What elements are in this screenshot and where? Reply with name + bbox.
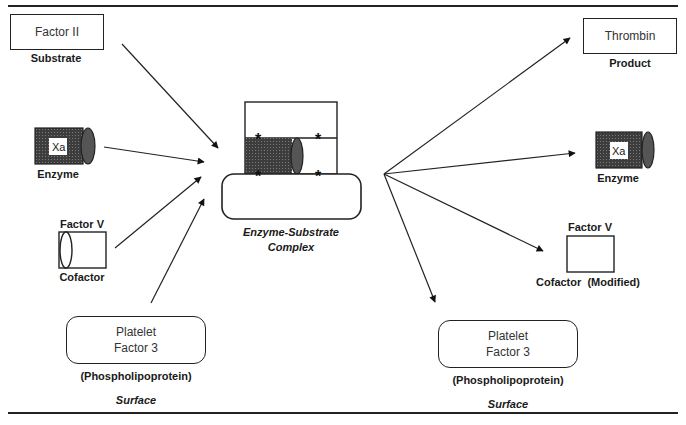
right-surface-label: Surface bbox=[488, 398, 528, 410]
left-platelet-factor-3-text: Platelet Factor 3 bbox=[114, 324, 158, 356]
svg-text:*: * bbox=[255, 131, 262, 148]
output-arrows bbox=[384, 38, 575, 302]
left-factor-v-label: Factor V bbox=[60, 218, 104, 230]
left-cofactor-label: Cofactor bbox=[59, 271, 104, 283]
right-xa-text: Xa bbox=[612, 145, 625, 157]
enzyme-substrate-complex-shape: * * * * bbox=[222, 102, 361, 219]
left-enzyme-label: Enzyme bbox=[37, 168, 79, 180]
right-cofactor-modified-label: Cofactor (Modified) bbox=[536, 276, 640, 288]
complex-label: Enzyme-Substrate Complex bbox=[243, 225, 339, 255]
substrate-label: Substrate bbox=[31, 52, 82, 64]
left-xa-text: Xa bbox=[52, 141, 65, 153]
right-platelet-factor-3-text: Platelet Factor 3 bbox=[486, 328, 530, 360]
left-platelet-factor-3-box: Platelet Factor 3 bbox=[66, 316, 206, 364]
thrombin-box: Thrombin bbox=[583, 18, 677, 54]
input-arrows bbox=[104, 44, 218, 303]
left-surface-label: Surface bbox=[116, 394, 156, 406]
svg-text:*: * bbox=[315, 131, 322, 148]
right-factor-v-label: Factor V bbox=[568, 221, 612, 233]
right-phospholipoprotein-label: (Phospholipoprotein) bbox=[452, 374, 563, 386]
factor-ii-box: Factor II bbox=[10, 14, 104, 50]
thrombin-text: Thrombin bbox=[605, 28, 656, 44]
left-cofactor-shape bbox=[59, 232, 106, 268]
right-cofactor-shape bbox=[567, 236, 614, 272]
svg-text:*: * bbox=[315, 168, 322, 185]
svg-text:*: * bbox=[255, 168, 262, 185]
product-label: Product bbox=[609, 57, 651, 69]
right-enzyme-label: Enzyme bbox=[597, 172, 639, 184]
factor-ii-text: Factor II bbox=[35, 24, 79, 40]
left-phospholipoprotein-label: (Phospholipoprotein) bbox=[80, 370, 191, 382]
right-platelet-factor-3-box: Platelet Factor 3 bbox=[438, 320, 578, 368]
